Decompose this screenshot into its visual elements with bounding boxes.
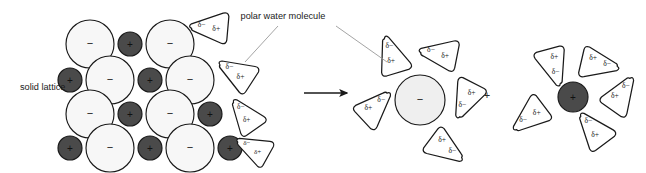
delta-plus-label: δ+ — [591, 130, 599, 139]
lattice-cation: + — [138, 68, 162, 92]
delta-plus-label: δ+ — [387, 56, 395, 65]
delta-plus-label: δ+ — [438, 135, 446, 144]
anion-sign: − — [87, 107, 93, 119]
dissolution-diagram: −−−−−−−−++++++++ δ−δ+δ−δ+δ−δ+δ−δ+ δ−δ+δ−… — [0, 0, 646, 173]
anion-sign: − — [417, 93, 423, 105]
delta-plus-label: δ+ — [533, 108, 541, 117]
anion-sign: − — [107, 141, 113, 153]
delta-minus-label: δ− — [226, 62, 234, 71]
lattice-cation: + — [138, 136, 162, 160]
delta-plus-label: δ+ — [243, 116, 250, 124]
cation-sign: + — [570, 92, 576, 103]
plus-separator: + — [484, 89, 490, 101]
delta-plus-label: δ+ — [441, 51, 449, 60]
delta-plus-label: δ+ — [589, 53, 597, 62]
cation-sign: + — [147, 143, 153, 154]
cation-sign: + — [67, 75, 73, 86]
delta-minus-label: δ− — [198, 20, 206, 29]
delta-plus-label: δ+ — [611, 91, 619, 100]
delta-minus-label: δ− — [448, 146, 456, 155]
delta-plus-label: δ+ — [551, 52, 559, 61]
delta-plus-label: δ+ — [365, 103, 373, 112]
anion-sign: − — [167, 107, 173, 119]
lattice-anion: − — [86, 124, 134, 172]
hydrated-cation-center-ion: + — [558, 82, 588, 112]
solid-lattice-label: solid lattice — [20, 82, 65, 92]
lattice-cation: + — [58, 136, 82, 160]
delta-minus-label: δ− — [519, 115, 527, 124]
delta-plus-label: δ+ — [468, 88, 476, 97]
delta-minus-label: δ− — [243, 139, 250, 147]
cation-sign: + — [227, 143, 233, 154]
delta-plus-label: δ+ — [237, 72, 245, 81]
delta-minus-label: δ− — [427, 45, 435, 54]
anion-sign: − — [87, 37, 93, 49]
cation-sign: + — [207, 109, 213, 120]
hydrated-anion-center-ion: − — [395, 75, 445, 125]
delta-minus-label: δ− — [377, 95, 385, 104]
lattice-cation: + — [118, 32, 142, 56]
cation-sign: + — [147, 75, 153, 86]
delta-plus-label: δ+ — [254, 148, 261, 156]
anion-sign: − — [187, 141, 193, 153]
anion-sign: − — [167, 37, 173, 49]
lattice-anion: − — [166, 124, 214, 172]
lattice-cation: + — [198, 102, 222, 126]
delta-plus-label: δ+ — [212, 24, 220, 33]
anion-sign: − — [107, 73, 113, 85]
delta-minus-label: δ− — [585, 116, 593, 125]
anion-sign: − — [187, 73, 193, 85]
polar-water-molecule-label: polar water molecule — [241, 11, 326, 21]
cation-sign: + — [127, 109, 133, 120]
delta-minus-label: δ− — [622, 81, 630, 90]
lattice-cation: + — [118, 102, 142, 126]
delta-minus-label: δ− — [603, 59, 611, 68]
cation-sign: + — [127, 39, 133, 50]
delta-minus-label: δ− — [385, 41, 393, 50]
delta-minus-label: δ− — [552, 67, 560, 76]
delta-minus-label: δ− — [237, 103, 244, 111]
cation-sign: + — [67, 143, 73, 154]
delta-minus-label: δ− — [458, 100, 466, 109]
